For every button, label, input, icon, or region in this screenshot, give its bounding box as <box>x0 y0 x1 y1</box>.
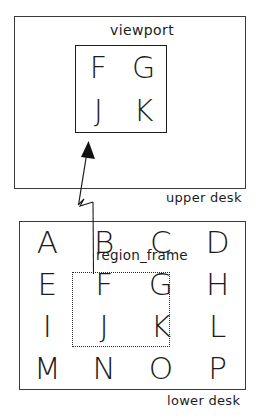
viewport-box: F G J K <box>75 45 167 133</box>
lower-desk-label: lower desk <box>167 393 240 408</box>
letter-cell: I <box>19 306 76 348</box>
viewport-letter-cell: K <box>121 89 166 132</box>
viewport-letter-cell: J <box>76 89 121 132</box>
letter-cell: L <box>189 306 246 348</box>
letter-cell: A <box>19 221 76 263</box>
region-frame-label: region_frame <box>96 247 188 263</box>
letter-cell: P <box>189 348 246 390</box>
letter-cell: E <box>19 263 76 305</box>
letter-cell: H <box>189 263 246 305</box>
letter-cell: M <box>19 348 76 390</box>
viewport-label: viewport <box>110 22 174 38</box>
upper-desk-label: upper desk <box>166 190 242 205</box>
viewport-letter-grid: F G J K <box>76 46 166 132</box>
letter-cell: O <box>133 348 190 390</box>
letter-cell: N <box>76 348 133 390</box>
arrow-zigzag <box>78 199 93 206</box>
letter-cell: D <box>189 221 246 263</box>
viewport-letter-cell: G <box>121 46 166 89</box>
diagram-canvas: viewport F G J K upper desk A B C D E F … <box>0 0 264 419</box>
region-frame-box <box>72 272 170 347</box>
viewport-letter-cell: F <box>76 46 121 89</box>
